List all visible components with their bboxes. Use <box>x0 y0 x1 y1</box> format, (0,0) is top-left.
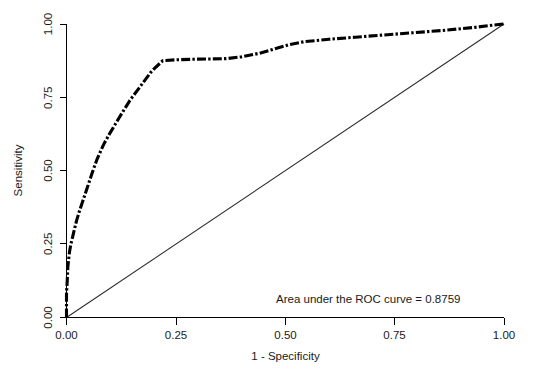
x-tick-label-0-50: 0.50 <box>274 329 296 341</box>
x-tick-label-1-00: 1.00 <box>493 329 515 341</box>
x-tick-label-0-00: 0.00 <box>55 329 77 341</box>
y-tick-label-1-00: 1.00 <box>42 13 54 35</box>
y-tick-label-0-75: 0.75 <box>42 87 54 109</box>
roc-plot-figure: 1.00 0.75 0.50 0.25 0.00 0.00 0.25 0.50 … <box>0 0 536 380</box>
auc-annotation-label: Area under the ROC curve = 0.8759 <box>276 293 460 305</box>
y-tick-label-0-00: 0.00 <box>42 306 54 328</box>
y-axis-title: Sensitivity <box>12 144 24 196</box>
x-axis-title: 1 - Specificity <box>251 350 320 362</box>
y-tick-label-0-50: 0.50 <box>42 159 54 181</box>
x-tick-label-0-75: 0.75 <box>383 329 405 341</box>
y-tick-label-0-25: 0.25 <box>42 233 54 255</box>
roc-chart-canvas: 1.00 0.75 0.50 0.25 0.00 0.00 0.25 0.50 … <box>0 0 536 380</box>
x-tick-label-0-25: 0.25 <box>165 329 187 341</box>
